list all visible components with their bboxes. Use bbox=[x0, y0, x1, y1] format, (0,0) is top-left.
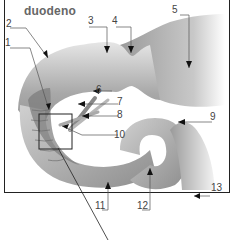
label-13: 13 bbox=[211, 183, 222, 193]
label-11: 11 bbox=[95, 201, 105, 211]
label-2: 2 bbox=[6, 19, 12, 29]
duodenum-illustration bbox=[0, 0, 233, 240]
diagram-title: duodeno bbox=[24, 4, 76, 18]
label-6: 6 bbox=[96, 85, 102, 95]
label-9: 9 bbox=[210, 112, 216, 122]
label-8: 8 bbox=[117, 110, 123, 120]
label-4: 4 bbox=[112, 16, 118, 26]
label-12: 12 bbox=[137, 201, 148, 211]
label-3: 3 bbox=[88, 16, 94, 26]
label-1: 1 bbox=[5, 38, 11, 48]
label-5: 5 bbox=[172, 5, 178, 15]
label-10: 10 bbox=[114, 130, 125, 140]
label-7: 7 bbox=[117, 97, 123, 107]
